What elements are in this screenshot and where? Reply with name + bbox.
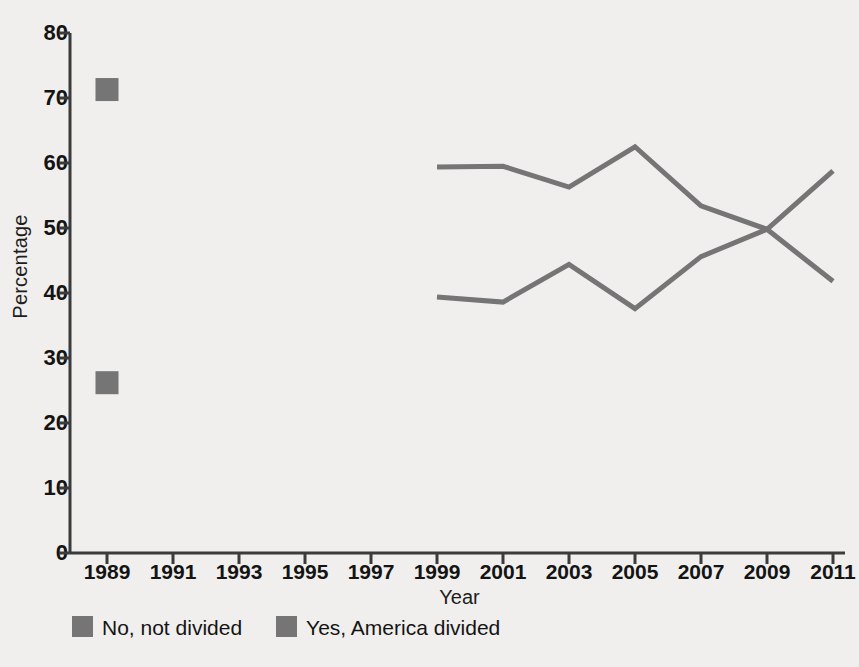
data-point-marker — [96, 371, 119, 394]
legend-item-label: Yes, America divided — [306, 617, 500, 638]
plot-area — [0, 0, 859, 667]
legend-item: No, not divided — [72, 616, 242, 637]
data-point-marker — [96, 78, 119, 101]
series-line — [437, 147, 833, 282]
chart-legend: No, not dividedYes, America divided — [72, 616, 500, 637]
legend-swatch-icon — [72, 616, 93, 637]
legend-item-label: No, not divided — [102, 617, 242, 638]
series-line — [437, 171, 833, 309]
x-axis-title: Year — [0, 586, 859, 609]
legend-swatch-icon — [276, 616, 297, 637]
legend-item: Yes, America divided — [276, 616, 500, 637]
x-axis-title-text: Year — [439, 586, 479, 609]
chart-container: Percentage 01020304050607080 19891991199… — [0, 0, 859, 667]
